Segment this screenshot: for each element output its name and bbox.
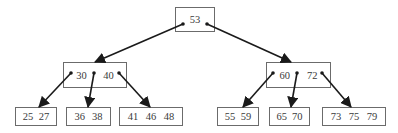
pointer-dot-icon bbox=[92, 71, 96, 75]
pointer-dot-icon bbox=[117, 71, 121, 75]
pointer-dot-icon bbox=[320, 71, 324, 75]
pointer-arrow bbox=[207, 24, 291, 62]
pointer-arrow bbox=[243, 73, 273, 107]
pointer-arrow bbox=[119, 73, 150, 107]
pointer-arrow bbox=[88, 73, 94, 107]
tree-pointers bbox=[0, 0, 398, 133]
pointer-dot-icon bbox=[181, 22, 185, 26]
pointer-dot-icon bbox=[295, 71, 299, 75]
pointer-dot-icon bbox=[205, 22, 209, 26]
pointer-dot-icon bbox=[69, 71, 73, 75]
b-tree-diagram: 53304060722527363841464855596570737579 bbox=[0, 0, 398, 133]
pointer-arrow bbox=[291, 73, 297, 107]
pointer-arrow bbox=[322, 73, 351, 107]
pointer-arrow bbox=[39, 73, 71, 107]
pointer-arrow bbox=[95, 24, 183, 62]
pointer-dot-icon bbox=[271, 71, 275, 75]
